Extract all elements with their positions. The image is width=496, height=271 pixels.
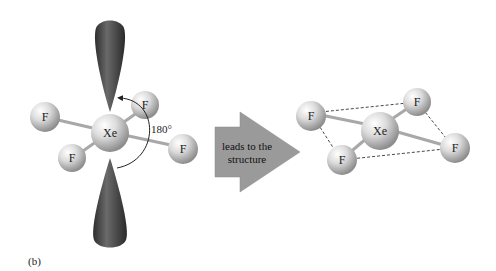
atom-label: F [308,109,315,123]
lone-pair-lobe-bottom [93,158,127,248]
atom-label: F [69,151,76,165]
atom-label: F [42,110,49,124]
leads-to-arrow: leads to the structure [215,112,300,192]
atom-label: F [452,141,459,155]
atom-label: F [339,153,346,167]
figure-caption: (b) [28,255,41,268]
arrow-text-line1: leads to the [222,140,272,152]
right-molecule: F F F F Xe [296,88,470,175]
atom-label: F [180,142,187,156]
left-molecule: F F F F Xe 180° [30,21,198,248]
arrow-shape [215,112,300,192]
atom-label: Xe [373,124,387,138]
atom-label: F [414,95,421,109]
arrow-text-line2: structure [228,153,267,165]
atom-label: Xe [103,126,117,140]
xef4-diagram: F F F F Xe 180° leads to the structure [0,0,496,271]
angle-label: 180° [151,123,172,135]
